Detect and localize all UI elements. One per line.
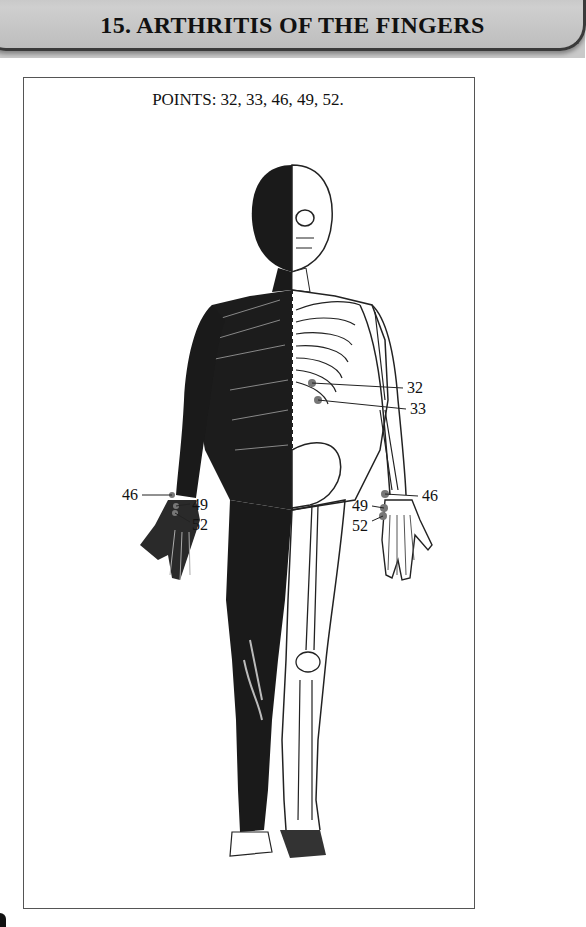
label-point-33: 33 bbox=[410, 400, 426, 417]
page-corner-decoration bbox=[0, 913, 6, 927]
label-point-52-right: 52 bbox=[352, 517, 368, 534]
right-foot bbox=[280, 830, 326, 858]
left-foot bbox=[230, 832, 272, 856]
label-point-49-right: 49 bbox=[352, 497, 368, 514]
left-leg-muscle bbox=[226, 500, 292, 832]
label-point-49-left: 49 bbox=[192, 496, 208, 513]
label-point-46-left: 46 bbox=[122, 486, 138, 503]
label-point-46-right: 46 bbox=[422, 487, 438, 504]
left-hand bbox=[140, 500, 200, 580]
skull-half bbox=[292, 165, 332, 272]
label-point-52-left: 52 bbox=[192, 516, 208, 533]
head-muscle-half bbox=[252, 165, 292, 272]
label-point-32: 32 bbox=[407, 379, 423, 396]
